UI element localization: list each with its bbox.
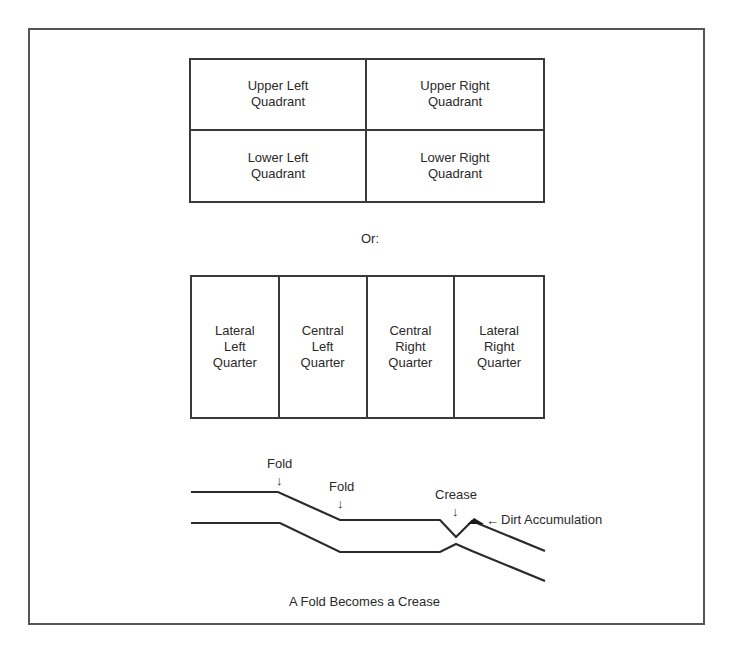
left-arrow-icon: ← xyxy=(486,514,499,527)
fold-label-2: Fold xyxy=(329,479,354,494)
down-arrow-icon: ↓ xyxy=(337,497,344,510)
fold-diagram-caption: A Fold Becomes a Crease xyxy=(289,594,440,609)
down-arrow-icon: ↓ xyxy=(276,474,283,487)
fold-crease-illustration xyxy=(0,0,729,648)
dirt-accumulation-mark xyxy=(468,518,484,524)
fold-lower-line xyxy=(191,523,545,581)
down-arrow-icon: ↓ xyxy=(452,505,459,518)
fold-label-1: Fold xyxy=(267,456,292,471)
dirt-accumulation-label: Dirt Accumulation xyxy=(501,512,602,527)
crease-label: Crease xyxy=(435,487,477,502)
